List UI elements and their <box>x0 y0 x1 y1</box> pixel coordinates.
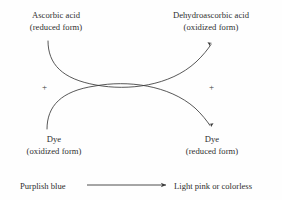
curved-arrows-group <box>0 0 282 200</box>
footer-arrow-icon <box>86 178 174 192</box>
footer-label-purplish-blue: Purplish blue <box>20 176 66 196</box>
arrow-dye-oxidized-to-dye-reduced <box>47 84 210 129</box>
footer-label-light-pink-or-colorless: Light pink or colorless <box>174 176 252 196</box>
arrow-ascorbic-to-dehydroascorbic <box>48 41 211 87</box>
reaction-diagram: Ascorbic acid (reduced form) Dehydroasco… <box>0 0 282 200</box>
